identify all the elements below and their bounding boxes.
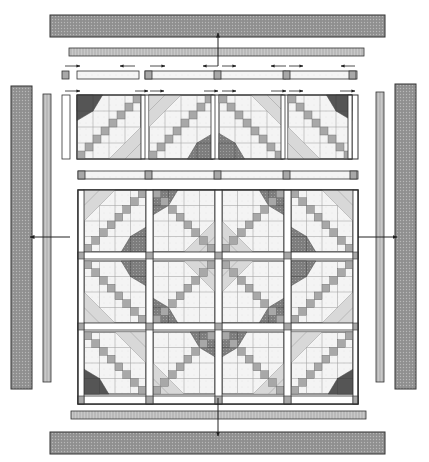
cornerstone [283, 71, 290, 79]
sashing-strip [353, 190, 358, 404]
sashing-strip [78, 190, 84, 404]
quilt-block [153, 190, 215, 252]
cornerstone [215, 323, 222, 330]
cornerstone [78, 252, 84, 259]
quilt-block [77, 95, 141, 159]
cornerstone [62, 71, 69, 79]
cornerstone [284, 323, 291, 330]
sashing-strip [281, 95, 285, 159]
sashing-strip [145, 71, 215, 79]
sashing-strip [284, 190, 291, 404]
cornerstone [283, 171, 290, 179]
cornerstone [349, 71, 356, 79]
cornerstone [145, 171, 152, 179]
cornerstone [145, 71, 152, 79]
sashing-strip [141, 95, 145, 159]
quilt-block [222, 261, 284, 323]
diagram-canvas [0, 0, 429, 462]
sashing-strip [215, 190, 222, 404]
quilt-block [288, 95, 352, 159]
quilt-block [291, 261, 353, 323]
sashing-strip [146, 190, 153, 404]
cornerstone [214, 71, 221, 79]
quilt-block [222, 332, 284, 394]
cornerstone [146, 252, 153, 259]
cornerstone [353, 252, 358, 259]
right-outer-border [395, 84, 416, 389]
cornerstone [353, 396, 358, 404]
top-row-layer [62, 66, 358, 159]
quilt-block [291, 332, 353, 394]
top-inner-border [69, 48, 364, 56]
cornerstone [78, 171, 85, 179]
sashing-strip [348, 95, 352, 159]
quilt-block [222, 190, 284, 252]
quilt-block [84, 190, 146, 252]
cornerstone [353, 323, 358, 330]
left-inner-border [43, 94, 51, 382]
quilt-block [84, 261, 146, 323]
sashing-strip [285, 71, 357, 79]
main-panel-layer [78, 171, 358, 404]
quilt-block [153, 332, 215, 394]
sashing-strip [211, 95, 215, 159]
quilt-block [291, 190, 353, 252]
cornerstone [215, 252, 222, 259]
cornerstone [146, 323, 153, 330]
quilt-block [149, 95, 213, 159]
cornerstone [146, 396, 153, 404]
cornerstone [78, 396, 84, 404]
cornerstone [284, 252, 291, 259]
cornerstone [78, 323, 84, 330]
quilt-block [84, 332, 146, 394]
sashing-strip [215, 71, 285, 79]
quilt-block [219, 95, 283, 159]
sashing-strip [77, 71, 139, 79]
quilt-assembly-diagram [0, 0, 429, 462]
sashing-strip [62, 95, 70, 159]
cornerstone [350, 171, 357, 179]
cornerstone [284, 396, 291, 404]
cornerstone [214, 171, 221, 179]
left-outer-border [11, 86, 32, 389]
quilt-block [153, 261, 215, 323]
